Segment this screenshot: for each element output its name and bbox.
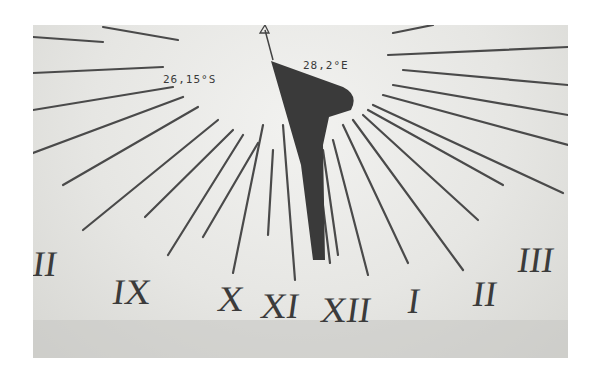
hour-numeral: III	[515, 239, 557, 281]
gnomon	[271, 61, 354, 260]
hour-numeral: XI	[258, 285, 302, 327]
hour-numeral: IX	[110, 271, 154, 313]
hour-numeral: XII	[318, 289, 374, 331]
latitude-label: 26,15°S	[163, 73, 216, 86]
north-arrow	[265, 30, 273, 60]
sundial-photo: 26,15°S 28,2°E II IX X XI XII I II III	[33, 25, 568, 358]
longitude-label: 28,2°E	[303, 59, 349, 72]
